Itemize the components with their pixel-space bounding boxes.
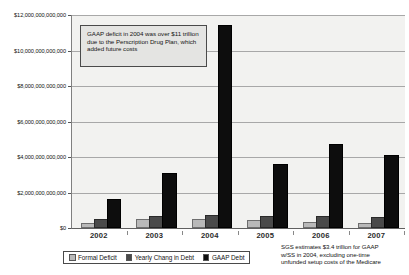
bar-group [350, 15, 406, 228]
y-tick-label: $8,000,000,000,000 [17, 83, 66, 89]
y-axis: $12,000,000,000,000$10,000,000,000,000$8… [0, 0, 69, 240]
x-tick-label-2005: 2005 [238, 231, 294, 241]
y-tick-label: $0 [60, 225, 66, 231]
x-separator [182, 231, 183, 235]
x-separator [293, 231, 294, 235]
y-tick-label: $2,000,000,000,000 [17, 190, 66, 196]
chart-legend: Formal DeficitYearly Chang in DebtGAAP D… [63, 251, 250, 264]
x-tick-label-2004: 2004 [182, 231, 238, 241]
y-tick-label: $4,000,000,000,000 [17, 154, 66, 160]
bar-gaap-debt-2005 [273, 164, 288, 228]
legend-label: GAAP Debt [212, 254, 244, 261]
y-tick-label: $6,000,000,000,000 [17, 119, 66, 125]
bar-gaap-debt-2006 [329, 144, 344, 228]
bar-group [294, 15, 350, 228]
bar-group [239, 15, 295, 228]
legend-label: Formal Deficit [78, 254, 117, 261]
x-tick-label-2002: 2002 [71, 231, 127, 241]
x-axis: 200220032004200520062007 [71, 231, 404, 243]
legend-label: Yearly Chang in Debt [135, 254, 194, 261]
x-tick-label-2003: 2003 [127, 231, 183, 241]
callout-annotation: GAAP deficit in 2004 was over $11 trilli… [80, 25, 207, 67]
legend-item-formal-deficit[interactable]: Formal Deficit [69, 254, 117, 261]
bar-gaap-debt-2003 [162, 173, 177, 228]
callout-text: GAAP deficit in 2004 was over $11 trilli… [87, 30, 201, 53]
legend-swatch-icon [203, 254, 210, 261]
x-tick-label-2007: 2007 [349, 231, 405, 241]
legend-swatch-icon [126, 254, 133, 261]
bar-gaap-debt-2004 [218, 25, 233, 228]
legend-swatch-icon [69, 254, 76, 261]
x-separator [404, 231, 405, 235]
footnote-annotation: SGS estimates $3.4 trillion for GAAP w/S… [281, 243, 409, 266]
bar-gaap-debt-2002 [107, 199, 122, 228]
footnote-line-2: w/SS in 2004, excluding one-time [281, 251, 409, 259]
legend-item-gaap-debt[interactable]: GAAP Debt [203, 254, 244, 261]
y-tick-label: $12,000,000,000,000 [14, 12, 66, 18]
bar-gaap-debt-2007 [384, 155, 399, 228]
footnote-line-1: SGS estimates $3.4 trillion for GAAP [281, 243, 409, 251]
legend-item-yearly-chang-in-debt[interactable]: Yearly Chang in Debt [126, 254, 194, 261]
bar-chart: $12,000,000,000,000$10,000,000,000,000$8… [0, 0, 409, 275]
x-separator [349, 231, 350, 235]
footnote-line-3: unfunded setup costs of the Medicare [281, 258, 409, 266]
x-tick-label-2006: 2006 [293, 231, 349, 241]
x-separator [238, 231, 239, 235]
y-tick-label: $10,000,000,000,000 [14, 48, 66, 54]
x-separator [127, 231, 128, 235]
